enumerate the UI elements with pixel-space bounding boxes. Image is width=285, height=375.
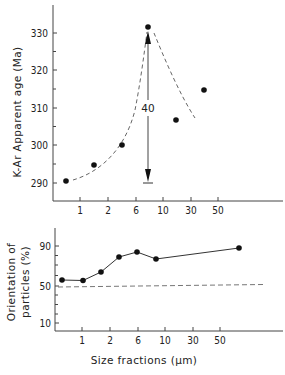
- lower-xtick-50: 50: [214, 335, 226, 346]
- upper-xtick-1: 1: [77, 205, 83, 216]
- lower-y-ticks: [55, 246, 59, 323]
- upper-ytick-330: 330: [31, 28, 48, 39]
- upper-y-ticks: [53, 33, 57, 183]
- upper-point-5: [173, 117, 179, 123]
- upper-xtick-50: 50: [212, 205, 224, 216]
- upper-ytick-300: 300: [31, 140, 48, 151]
- lower-y-axis-title-line1: Orientation of: [5, 243, 17, 321]
- lower-point-5: [134, 249, 140, 255]
- upper-x-ticks: [80, 197, 218, 201]
- upper-xtick-6: 6: [133, 205, 139, 216]
- arrow-down-head-icon: [145, 169, 151, 182]
- lower-point-3: [98, 269, 104, 275]
- figure: 330 320 310 300 290 1 2 6 10 30 50 K-Ar …: [0, 0, 285, 375]
- lower-xtick-1: 1: [79, 335, 85, 346]
- lower-chart: 90 50 10 1 2 6 10 30 50 Size fractions (…: [5, 228, 283, 366]
- upper-ytick-320: 320: [31, 65, 48, 76]
- upper-envelope-right: [154, 33, 195, 118]
- lower-xtick-6: 6: [135, 335, 141, 346]
- lower-point-1: [59, 277, 65, 283]
- upper-xtick-10: 10: [157, 205, 169, 216]
- lower-point-7: [236, 245, 242, 251]
- upper-xtick-30: 30: [185, 205, 197, 216]
- lower-point-4: [116, 254, 122, 260]
- lower-ytick-10: 10: [40, 318, 52, 329]
- upper-chart: 330 320 310 300 290 1 2 6 10 30 50 K-Ar …: [11, 5, 283, 216]
- lower-x-ticks: [82, 327, 220, 331]
- upper-point-1: [63, 178, 69, 184]
- arrow-label: 40: [141, 102, 154, 114]
- upper-point-4: [145, 24, 151, 30]
- lower-y-axis-title-line2: particles (%): [19, 246, 31, 318]
- reference-line-50: [58, 285, 264, 288]
- upper-point-3: [119, 142, 125, 148]
- lower-point-2: [80, 278, 86, 284]
- upper-ytick-290: 290: [31, 178, 48, 189]
- upper-ytick-310: 310: [31, 103, 48, 114]
- upper-data-points: [63, 24, 207, 184]
- lower-point-6: [153, 256, 159, 262]
- lower-ytick-90: 90: [40, 241, 52, 252]
- lower-xtick-30: 30: [187, 335, 199, 346]
- lower-series-line: [62, 248, 239, 281]
- lower-xtick-10: 10: [159, 335, 171, 346]
- upper-point-2: [91, 162, 97, 168]
- lower-x-axis-title: Size fractions (μm): [91, 354, 198, 366]
- upper-point-6: [201, 87, 207, 93]
- upper-xtick-2: 2: [105, 205, 111, 216]
- upper-y-axis-title: K-Ar Apparent age (Ma): [11, 46, 23, 177]
- lower-xtick-2: 2: [107, 335, 113, 346]
- lower-ytick-50: 50: [40, 281, 52, 292]
- upper-envelope-left: [73, 32, 147, 180]
